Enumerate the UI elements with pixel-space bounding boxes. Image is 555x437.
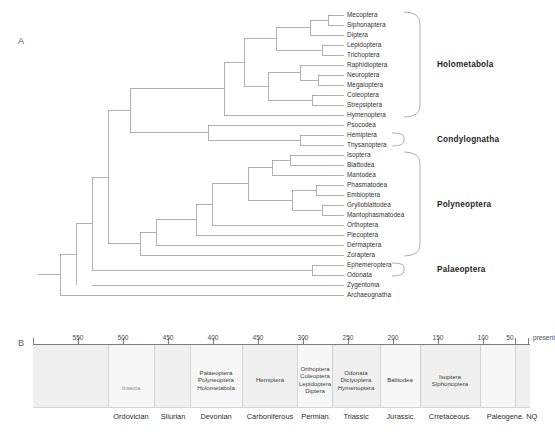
tip-label-dermaptera: Dermaptera [347, 241, 381, 248]
tip-label-odonata: Odonata [347, 271, 372, 278]
tip-label-mantodea: Mantodea [347, 171, 376, 178]
clade-label-condylognatha: Condylognatha [437, 135, 499, 144]
tick-label-450: 450 [148, 334, 188, 341]
period-label-cretaceous: Crretaceous. [419, 412, 481, 421]
band-line: Polyneoptera [190, 376, 242, 383]
clade-label-polyneoptera: Polyneoptera [437, 200, 491, 209]
tip-label-lepidoptera: Lepidoptera [347, 41, 381, 48]
band-line: Siphonoptera [420, 380, 480, 387]
tip-label-isoptera: Isoptera [347, 151, 371, 158]
tip-label-zygentoma: Zygentoma [347, 281, 379, 288]
band-line: Palaeoptera [190, 369, 242, 376]
tip-label-archaeognatha: Archaeognatha [347, 291, 391, 298]
tip-label-neuroptera: Neuroptera [347, 71, 379, 78]
tick-label-550: 550 [58, 334, 98, 341]
tick-label-200: 200 [373, 334, 413, 341]
period-label-silurian: Silurian [152, 412, 194, 421]
band-label-triassic-clades: Odonata Dictyoptera Hymenoptera [332, 369, 380, 391]
tip-label-siphonaptera: Siphonaptera [347, 21, 386, 28]
band-line: Lepidoptera [297, 380, 333, 387]
period-label-permian: Permian. [296, 412, 336, 421]
period-label-jurassic: Jurassic. [379, 412, 423, 421]
tip-label-psocodea: Psocodea [347, 121, 376, 128]
period-label-carboniferous: Carboniferous [239, 412, 301, 421]
band-label-devonian-clades: Palaeoptera Polyneoptera Holometabola [190, 369, 242, 391]
band-label-jurassic-clades: Balttodea [380, 376, 420, 383]
tip-label-zoraptera: Zoraptera [347, 251, 375, 258]
tip-label-diptera: Diptera [347, 31, 368, 38]
bracket-condylognatha [392, 133, 404, 146]
tick-label-250: 250 [328, 334, 368, 341]
tick-label-present: present [500, 334, 555, 341]
tip-label-raphidioptera: Raphidioptera [347, 61, 387, 68]
tip-label-orthoptera: Orthoptera [347, 221, 378, 228]
band-line: Dictyoptera [332, 376, 380, 383]
band-line: Hemiptera [243, 376, 297, 383]
tip-label-thysanoptera: Thysanoptera [347, 141, 387, 148]
band-line: Holometabola [190, 384, 242, 391]
clade-label-holometabola: Holometabola [437, 60, 494, 69]
cladogram-branches [0, 0, 540, 330]
band-line: Balttodea [380, 376, 420, 383]
band-line: Odonata [332, 369, 380, 376]
tip-label-hemiptera: Hemiptera [347, 131, 377, 138]
tip-label-trichoptera: Trichoptera [347, 51, 380, 58]
tip-label-ephemeroptera: Ephemeroptera [347, 261, 392, 268]
band-line: Hymenoptera [332, 384, 380, 391]
bracket-polyneoptera [404, 152, 420, 256]
band-line: Coleoptera [297, 372, 333, 379]
band-label-carboniferous-clades: Hemiptera [243, 376, 297, 383]
tick-label-150: 150 [418, 334, 458, 341]
period-label-devonian: Devonian [190, 412, 242, 421]
tip-label-mantophasmatodea: Mantophasmatodea [347, 211, 404, 218]
band-line: Orthoptera [297, 365, 333, 372]
panel-b-timescale: B [0, 330, 540, 437]
tick-label-500: 500 [103, 334, 143, 341]
tip-label-megaloptera: Megaloptera [347, 81, 383, 88]
band-label-cretaceous-clades: Isoptera Siphonoptera [420, 373, 480, 388]
tick-label-400: 400 [193, 334, 233, 341]
tick-label-300: 300 [283, 334, 323, 341]
tip-label-plecoptera: Plecoptera [347, 231, 378, 238]
panel-a-cladogram: A [0, 0, 540, 330]
tip-label-strepsiptera: Strepsiptera [347, 101, 382, 108]
tip-label-grylloblattodea: Grylloblattodea [347, 201, 391, 208]
tip-label-hymenoptera: Hymenoptera [347, 111, 386, 118]
tip-label-embioptera: Embioptera [347, 191, 380, 198]
tip-label-phasmatodea: Phasmatodea [347, 181, 387, 188]
bracket-holometabola [404, 12, 420, 117]
band-line: Isoptera [420, 373, 480, 380]
bracket-palaeoptera [392, 263, 404, 276]
period-label-paleogene-nq: Paleogene. NQ [477, 412, 547, 421]
tick-label-350: 450 [238, 334, 278, 341]
clade-label-palaeoptera: Palaeoptera [437, 265, 486, 274]
band-line: Diptera [297, 387, 333, 394]
band-label-permian-clades: Orthoptera Coleoptera Lepidoptera Dipter… [297, 365, 333, 395]
band-label-insecta: Insecta [110, 385, 152, 392]
period-label-triassic: Triassic [332, 412, 380, 421]
tip-label-mecoptera: Mecoptera [347, 11, 378, 18]
tip-label-blattodea: Blattodea [347, 161, 374, 168]
tip-label-coleoptera: Coleoptera [347, 91, 379, 98]
